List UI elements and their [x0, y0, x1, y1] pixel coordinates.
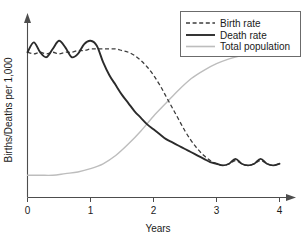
y-axis-title: Births/Deaths per 1,000	[3, 57, 14, 162]
series-line-death-rate	[28, 41, 280, 166]
x-axis-title: Years	[145, 223, 170, 234]
series-group	[28, 41, 280, 176]
series-line-birth-rate	[28, 49, 280, 166]
x-tick-label-3: 3	[214, 205, 220, 216]
x-tick-label-4: 4	[277, 205, 283, 216]
legend-label-death-rate: Death rate	[220, 30, 267, 41]
x-tick-label-1: 1	[88, 205, 94, 216]
series-line-total-population	[28, 52, 280, 175]
x-tick-labels: 0 1 2 3 4	[25, 205, 283, 216]
chart-canvas: 0 1 2 3 4 Years Births/Deaths per 1,000 …	[0, 0, 308, 239]
x-tick-label-2: 2	[151, 205, 157, 216]
legend: Birth rate Death rate Total population	[181, 12, 301, 57]
x-tick-marks	[28, 198, 280, 203]
legend-label-birth-rate: Birth rate	[220, 18, 261, 29]
y-axis-arrowhead	[24, 13, 31, 23]
legend-label-total-population: Total population	[220, 41, 290, 52]
demographic-transition-chart: 0 1 2 3 4 Years Births/Deaths per 1,000 …	[0, 0, 308, 239]
x-tick-label-0: 0	[25, 205, 31, 216]
x-axis-arrowhead	[286, 194, 296, 201]
